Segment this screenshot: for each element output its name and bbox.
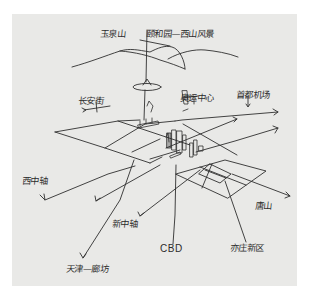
leader-lines (82, 96, 250, 112)
main-axes (118, 109, 278, 159)
sketch-drawing (0, 0, 311, 293)
right-grid (176, 160, 290, 242)
label-mountain: 玉泉山 (99, 27, 126, 40)
label-new-district: 亦庄新区 (229, 241, 264, 254)
label-new-axis: 新中轴 (111, 217, 138, 230)
label-summer-palace: 颐和园—西山风景 (145, 27, 214, 40)
label-center-upper: 奥运中心 (179, 91, 214, 104)
mountain-ridges (72, 40, 238, 69)
label-left-upper: 长安街 (77, 94, 104, 107)
label-right-side: 唐山 (254, 199, 272, 212)
label-west-axis: 西中轴 (21, 174, 48, 187)
label-bottom-left: 天津—廊坊 (65, 262, 109, 275)
left-grid (40, 120, 175, 200)
label-right-upper: 首都机场 (235, 88, 270, 101)
label-cbd: CBD (160, 243, 183, 254)
